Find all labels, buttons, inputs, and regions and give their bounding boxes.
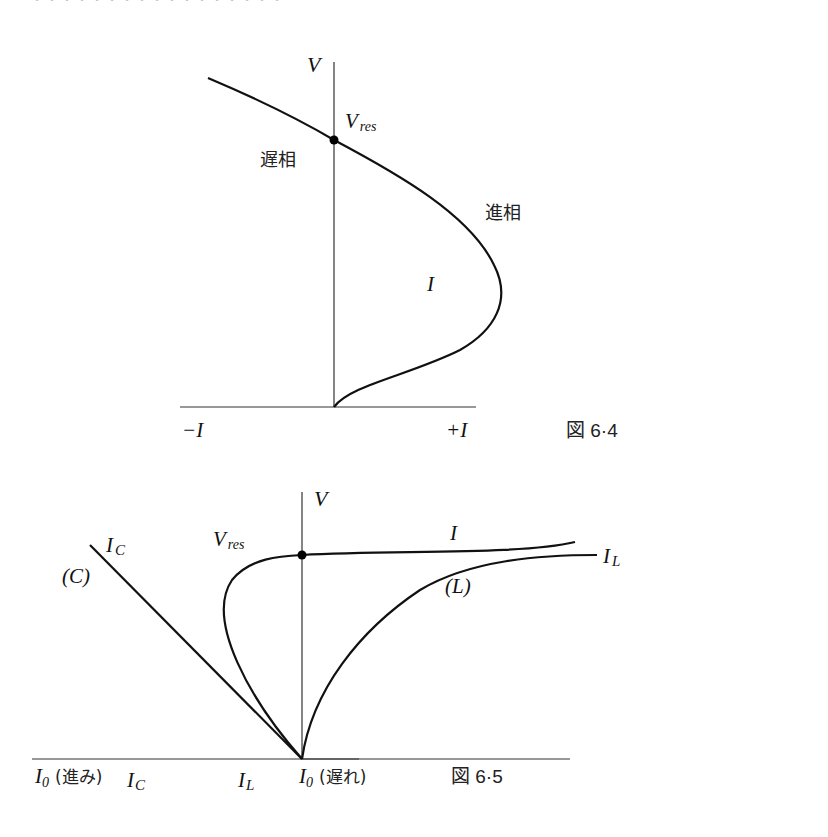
v-axis-label-2: V [314,486,330,511]
neg-i-label: −I [182,418,204,442]
figures-canvas: V Vres 遅相 進相 I −I +I 図 6·4 V Vres I IC (… [0,0,828,837]
ic-curve-label: IC [105,533,126,558]
vres-point [330,136,339,145]
ic-axis-label: IC [126,768,146,793]
vres-label: Vres [345,109,377,134]
lagging-label: 遅相 [260,149,296,170]
v-axis-label: V [307,52,323,77]
figure-caption-6-4: 図 6·4 [566,420,618,441]
total-i-label: I [449,521,458,545]
figure-caption-6-5: 図 6·5 [451,766,503,787]
total-current-curve [224,542,575,759]
i0-lag-label: I0(遅れ) [298,764,366,790]
i0-lead-label: I0(進み) [34,764,102,790]
figure-6-5: V Vres I IC (C) IL (L) I0(進み) IC IL I0(遅… [32,486,620,793]
vres-label-2: Vres [213,527,245,552]
vres-point-2 [298,551,307,560]
curve-i-label: I [426,272,435,296]
il-curve-label: IL [602,544,620,569]
il-axis-label: IL [237,768,254,793]
l-paren-label: (L) [445,574,471,598]
figure-6-4: V Vres 遅相 進相 I −I +I 図 6·4 [180,52,618,442]
ic-line [90,545,302,759]
c-paren-label: (C) [62,564,90,588]
pos-i-label: +I [446,418,468,442]
leading-label: 進相 [485,202,521,223]
